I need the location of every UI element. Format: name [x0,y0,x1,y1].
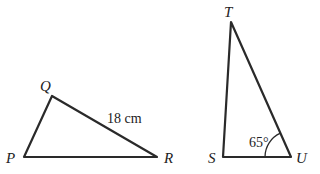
vertex-label-s: S [208,150,216,166]
angle-label-u: 65° [249,135,269,150]
geometry-diagram: P Q R 18 cm T S U 65° [0,0,320,174]
vertex-label-t: T [224,4,234,20]
vertex-label-u: U [296,150,308,166]
vertex-label-r: R [163,150,173,166]
vertex-label-p: P [5,150,15,166]
triangle-stu: T S U 65° [208,4,308,166]
triangle-pqr-outline [24,96,157,157]
side-length-qr: 18 cm [107,111,142,126]
vertex-label-q: Q [40,78,51,94]
triangle-pqr: P Q R 18 cm [5,78,173,166]
